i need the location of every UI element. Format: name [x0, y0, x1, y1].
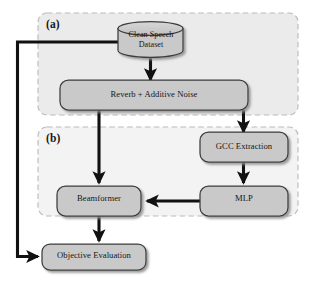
- node-clean-speech-dataset[interactable]: [118, 22, 183, 58]
- node-gcc-extraction[interactable]: [200, 132, 288, 162]
- diagram-canvas: [0, 0, 314, 285]
- block-diagram-figure: (a) (b) Clean SpeechDataset Reverb + Add…: [0, 0, 314, 285]
- node-reverb-additive-noise[interactable]: [60, 80, 248, 110]
- node-objective-evaluation[interactable]: [42, 244, 146, 270]
- node-beamformer[interactable]: [57, 186, 141, 216]
- node-mlp[interactable]: [200, 186, 288, 216]
